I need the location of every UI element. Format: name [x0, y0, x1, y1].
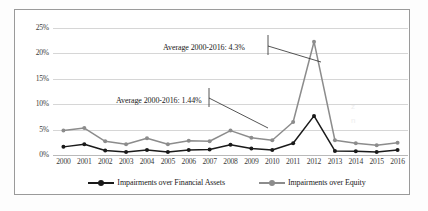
- leader-line: [209, 98, 268, 128]
- chart-page: 25%20%15%10%5%0% 20002001200220032004200…: [0, 0, 428, 211]
- leader-line: [268, 46, 321, 62]
- annotation-leader-lines: [15, 10, 411, 196]
- chart-frame: 25%20%15%10%5%0% 20002001200220032004200…: [14, 9, 410, 195]
